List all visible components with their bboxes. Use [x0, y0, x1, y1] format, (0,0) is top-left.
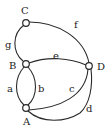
edge-label-a: a [7, 83, 13, 94]
node-C [23, 20, 30, 27]
node-A [23, 105, 30, 112]
edge-f [29, 22, 89, 63]
edge-label-c: c [69, 83, 75, 94]
node-label-A: A [22, 116, 31, 127]
node-B [23, 61, 30, 68]
edge-a [17, 67, 25, 105]
edge-d [28, 69, 92, 120]
edge-label-g: g [5, 39, 12, 50]
graph-diagram: C B A D a b c d e f g [0, 0, 109, 138]
edge-label-e: e [53, 50, 59, 61]
node-label-D: D [97, 61, 105, 72]
edge-label-d: d [86, 103, 93, 114]
node-label-C: C [21, 5, 29, 16]
edge-b [28, 67, 36, 105]
edge-label-f: f [74, 19, 79, 30]
edge-label-b: b [38, 83, 44, 94]
node-label-B: B [9, 60, 16, 71]
edge-g [15, 25, 24, 61]
node-D [86, 63, 93, 70]
